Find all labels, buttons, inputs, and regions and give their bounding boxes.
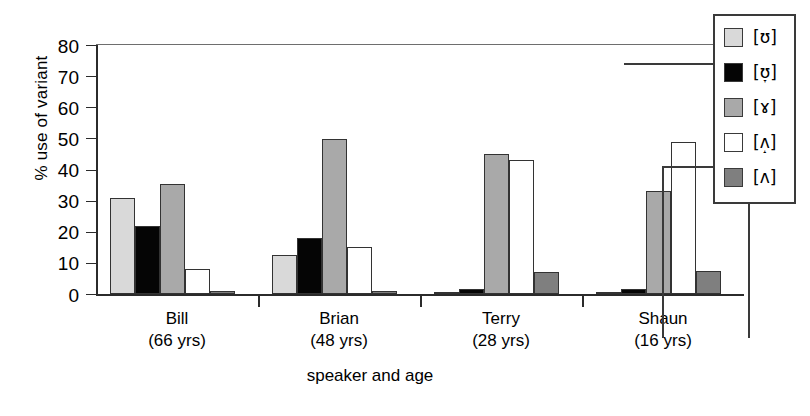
- bar-terry-series-5: [534, 272, 559, 294]
- bar-terry-series-4: [509, 160, 534, 294]
- bar-brian-series-2: [297, 238, 322, 294]
- bar-shaun-series-4: [671, 142, 696, 294]
- plot-top-border: [96, 44, 744, 45]
- legend-swatch-icon-1: [724, 28, 743, 47]
- legend-item-1[interactable]: [ʊ]: [724, 24, 792, 50]
- speaker-age: (28 yrs): [420, 330, 582, 352]
- y-axis-title: % use of variant: [32, 0, 52, 238]
- legend-box: [ʊ][ʊ]˕[ɤ][ʌ]˔[ʌ]: [713, 14, 796, 204]
- legend-swatch-icon-3: [724, 98, 743, 117]
- y-tick-label-70: 70: [58, 67, 79, 86]
- bar-bill-series-4: [185, 269, 210, 294]
- x-tick-3: [582, 296, 584, 307]
- bar-shaun-series-5: [696, 271, 721, 294]
- bar-bill-series-1: [110, 198, 135, 294]
- legend-leader-left: [624, 63, 713, 65]
- y-tick-50: 50: [86, 138, 96, 139]
- bar-bill-series-2: [135, 226, 160, 294]
- y-tick-label-30: 30: [58, 192, 79, 211]
- speaker-name: Brian: [258, 308, 420, 330]
- x-category-label-bill: Bill(66 yrs): [96, 308, 258, 353]
- y-tick-label-50: 50: [58, 129, 79, 148]
- bar-brian-series-4: [347, 247, 372, 294]
- y-tick-label-40: 40: [58, 161, 79, 180]
- legend-item-5[interactable]: [ʌ]: [724, 164, 792, 190]
- bar-terry-series-2: [459, 289, 484, 294]
- speaker-name: Terry: [420, 308, 582, 330]
- bar-brian-series-3: [322, 139, 347, 294]
- legend-label-2: [ʊ]˕: [753, 64, 777, 81]
- y-tick-70: 70: [86, 76, 96, 77]
- y-tick-label-60: 60: [58, 98, 79, 117]
- x-category-label-brian: Brian(48 yrs): [258, 308, 420, 353]
- bar-terry-series-3: [484, 154, 509, 294]
- bar-terry-series-1: [434, 292, 459, 295]
- bar-brian-series-5: [372, 291, 397, 294]
- y-tick-label-0: 0: [68, 285, 79, 304]
- bar-shaun-series-3: [646, 191, 671, 294]
- x-tick-1: [258, 296, 260, 307]
- y-tick-30: 30: [86, 201, 96, 202]
- legend-label-3: [ɤ]: [753, 99, 776, 116]
- legend-item-4[interactable]: [ʌ]˔: [724, 129, 792, 155]
- chart-figure: % use of variant 01020304050607080 Bill(…: [0, 0, 810, 416]
- bar-shaun-series-2: [621, 289, 646, 294]
- legend-leader-down: [748, 202, 750, 338]
- y-axis-line: [96, 44, 98, 296]
- y-tick-0: 0: [86, 294, 96, 295]
- bar-shaun-series-1: [596, 292, 621, 295]
- legend-label-1: [ʊ]: [753, 29, 777, 46]
- y-tick-20: 20: [86, 232, 96, 233]
- plot-area: 01020304050607080: [96, 44, 744, 296]
- y-tick-10: 10: [86, 263, 96, 264]
- y-tick-label-20: 20: [58, 223, 79, 242]
- legend-leader-lower-h: [662, 166, 713, 168]
- x-axis-title: speaker and age: [0, 366, 740, 386]
- x-category-label-terry: Terry(28 yrs): [420, 308, 582, 353]
- legend-label-4: [ʌ]˔: [753, 134, 776, 151]
- speaker-name: Bill: [96, 308, 258, 330]
- legend-label-5: [ʌ]: [753, 169, 776, 186]
- bar-brian-series-1: [272, 255, 297, 294]
- legend-item-2[interactable]: [ʊ]˕: [724, 59, 792, 85]
- bar-bill-series-3: [160, 184, 185, 294]
- legend-diacritic-2: ˕: [762, 76, 768, 87]
- speaker-age: (66 yrs): [96, 330, 258, 352]
- y-tick-40: 40: [86, 170, 96, 171]
- legend-item-3[interactable]: [ɤ]: [724, 94, 792, 120]
- legend-swatch-icon-2: [724, 63, 743, 82]
- legend-swatch-icon-4: [724, 133, 743, 152]
- y-tick-60: 60: [86, 107, 96, 108]
- bar-bill-series-5: [210, 291, 235, 294]
- legend-swatch-icon-5: [724, 168, 743, 187]
- x-tick-2: [420, 296, 422, 307]
- legend-diacritic-4: ˔: [762, 146, 768, 157]
- y-tick-label-10: 10: [58, 254, 79, 273]
- speaker-age: (48 yrs): [258, 330, 420, 352]
- y-tick-label-80: 80: [58, 36, 79, 55]
- y-tick-80: 80: [86, 45, 96, 46]
- legend-leader-lower: [662, 166, 664, 338]
